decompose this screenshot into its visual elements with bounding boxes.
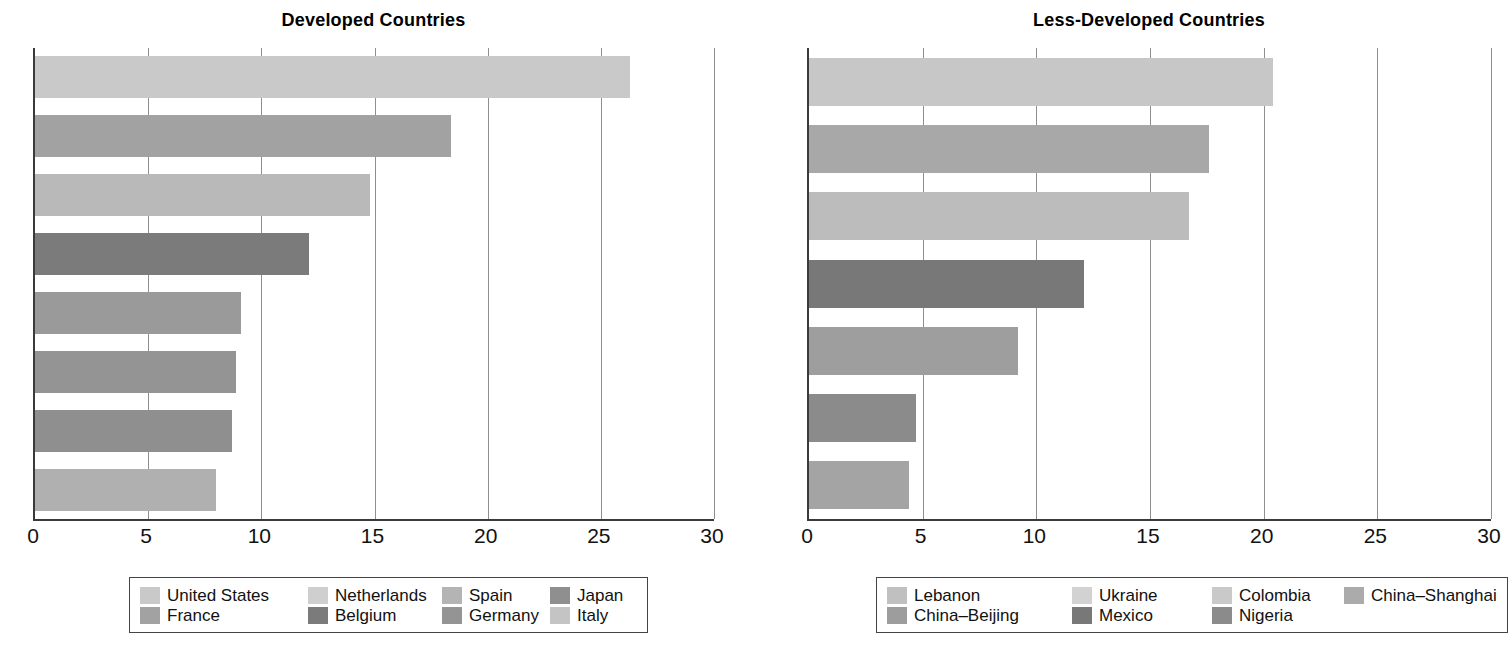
x-tick-label-5: 5 bbox=[915, 524, 927, 548]
legend-swatch-icon bbox=[1212, 587, 1232, 604]
x-axis-ticks-less-developed: 051015202530 bbox=[807, 524, 1491, 554]
x-tick-label-5: 5 bbox=[140, 524, 152, 548]
legend-item[interactable]: United States bbox=[140, 587, 308, 604]
legend-swatch-icon bbox=[442, 607, 462, 624]
bar-fill bbox=[809, 125, 1209, 173]
x-tick-label-20: 20 bbox=[1250, 524, 1273, 548]
bar-fill bbox=[35, 410, 232, 452]
legend-swatch-icon bbox=[887, 587, 907, 604]
bar-fill bbox=[35, 56, 630, 98]
legend-label: United States bbox=[167, 587, 269, 604]
bar-fill bbox=[35, 469, 216, 511]
x-tick-label-25: 25 bbox=[587, 524, 610, 548]
legend-item[interactable]: Nigeria bbox=[1212, 607, 1344, 624]
legend-label: Ukraine bbox=[1099, 587, 1158, 604]
bar bbox=[35, 351, 236, 393]
bar-fill bbox=[809, 394, 916, 442]
legend-item[interactable]: Spain bbox=[442, 587, 550, 604]
legend-swatch-icon bbox=[308, 607, 328, 624]
gridline-30 bbox=[1491, 48, 1492, 519]
bar bbox=[809, 125, 1209, 173]
bar bbox=[809, 461, 909, 509]
bar bbox=[35, 115, 451, 157]
legend-swatch-icon bbox=[1212, 607, 1232, 624]
legend-item[interactable]: France bbox=[140, 607, 308, 624]
legend-swatch-icon bbox=[1072, 607, 1092, 624]
legend-developed: United StatesFranceNetherlandsBelgiumSpa… bbox=[129, 577, 648, 633]
panel-less-developed-countries: Less-Developed Countries 051015202530 Le… bbox=[774, 0, 1505, 653]
legend-label: Belgium bbox=[335, 607, 396, 624]
legend-item[interactable]: Ukraine bbox=[1072, 587, 1212, 604]
bar bbox=[809, 394, 916, 442]
legend-swatch-icon bbox=[442, 587, 462, 604]
bar-series-less-developed bbox=[809, 48, 1491, 519]
legend-item[interactable]: Colombia bbox=[1212, 587, 1344, 604]
plot-area-less-developed bbox=[807, 48, 1491, 521]
chart-title-developed: Developed Countries bbox=[34, 10, 713, 31]
legend-item[interactable]: Germany bbox=[442, 607, 550, 624]
legend-label: Mexico bbox=[1099, 607, 1153, 624]
legend-swatch-icon bbox=[1072, 587, 1092, 604]
x-tick-label-30: 30 bbox=[700, 524, 723, 548]
legend-swatch-icon bbox=[550, 607, 570, 624]
legend-swatch-icon bbox=[1344, 587, 1364, 604]
panel-developed-countries: Developed Countries 051015202530 United … bbox=[0, 0, 752, 653]
x-tick-label-0: 0 bbox=[801, 524, 813, 548]
legend-label: Lebanon bbox=[914, 587, 980, 604]
bar-fill bbox=[809, 260, 1084, 308]
legend-item[interactable]: Lebanon bbox=[887, 587, 1072, 604]
bar-fill bbox=[809, 58, 1273, 106]
legend-label: Italy bbox=[577, 607, 608, 624]
legend-label: Nigeria bbox=[1239, 607, 1293, 624]
bar bbox=[809, 260, 1084, 308]
legend-less-developed: LebanonChina–BeijingUkraineMexicoColombi… bbox=[876, 577, 1508, 633]
x-tick-label-30: 30 bbox=[1477, 524, 1500, 548]
legend-item[interactable]: Mexico bbox=[1072, 607, 1212, 624]
bar bbox=[809, 58, 1273, 106]
bar-fill bbox=[809, 192, 1189, 240]
plot-area-developed bbox=[33, 48, 714, 521]
x-tick-label-25: 25 bbox=[1364, 524, 1387, 548]
legend-label: China–Shanghai bbox=[1371, 587, 1497, 604]
x-tick-label-20: 20 bbox=[474, 524, 497, 548]
legend-item[interactable]: Belgium bbox=[308, 607, 442, 624]
legend-label: Japan bbox=[577, 587, 623, 604]
bar-fill bbox=[35, 174, 370, 216]
legend-item[interactable]: China–Shanghai bbox=[1344, 587, 1512, 604]
bar bbox=[35, 233, 309, 275]
legend-swatch-icon bbox=[308, 587, 328, 604]
legend-item[interactable]: Italy bbox=[550, 607, 636, 624]
legend-label: Netherlands bbox=[335, 587, 427, 604]
x-tick-label-10: 10 bbox=[1023, 524, 1046, 548]
x-tick-label-15: 15 bbox=[361, 524, 384, 548]
bar bbox=[809, 327, 1018, 375]
bar bbox=[35, 56, 630, 98]
bar bbox=[35, 410, 232, 452]
legend-swatch-icon bbox=[140, 607, 160, 624]
legend-swatch-icon bbox=[550, 587, 570, 604]
bar-series-developed bbox=[35, 48, 714, 519]
bar-fill bbox=[809, 461, 909, 509]
bar bbox=[809, 192, 1189, 240]
legend-item[interactable]: China–Beijing bbox=[887, 607, 1072, 624]
legend-item[interactable]: Netherlands bbox=[308, 587, 442, 604]
legend-label: Germany bbox=[469, 607, 539, 624]
bar bbox=[35, 292, 241, 334]
bar bbox=[35, 174, 370, 216]
legend-item[interactable]: Japan bbox=[550, 587, 636, 604]
bar-fill bbox=[809, 327, 1018, 375]
legend-swatch-icon bbox=[887, 607, 907, 624]
bar-fill bbox=[35, 115, 451, 157]
legend-label: China–Beijing bbox=[914, 607, 1019, 624]
x-axis-ticks-developed: 051015202530 bbox=[33, 524, 714, 554]
legend-swatch-icon bbox=[140, 587, 160, 604]
legend-label: Colombia bbox=[1239, 587, 1311, 604]
legend-label: Spain bbox=[469, 587, 512, 604]
gridline-30 bbox=[714, 48, 715, 519]
legend-label: France bbox=[167, 607, 220, 624]
x-tick-label-15: 15 bbox=[1136, 524, 1159, 548]
bar-fill bbox=[35, 233, 309, 275]
x-tick-label-0: 0 bbox=[27, 524, 39, 548]
bar bbox=[35, 469, 216, 511]
